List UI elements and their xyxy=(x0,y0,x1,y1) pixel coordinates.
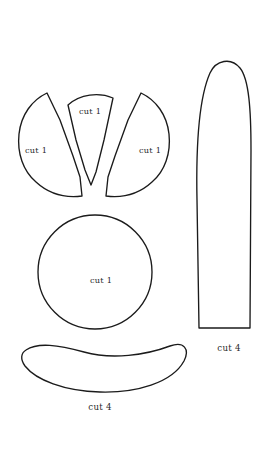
piece-label-center-circle: cut 1 xyxy=(90,275,112,285)
pattern-diagram: cut 1 cut 1 cut 1 cut 1 cut 4 cut 4 xyxy=(0,0,261,455)
piece-center-circle[interactable] xyxy=(38,215,152,329)
piece-label-left-petal: cut 1 xyxy=(25,145,47,155)
piece-label-long-leaf: cut 4 xyxy=(217,343,241,353)
piece-crescent-strip[interactable] xyxy=(22,344,187,392)
piece-label-center-wedge: cut 1 xyxy=(79,106,101,116)
piece-label-crescent-strip: cut 4 xyxy=(88,402,112,412)
piece-long-leaf[interactable] xyxy=(197,61,251,328)
piece-label-right-petal: cut 1 xyxy=(139,145,161,155)
pattern-sheet: cut 1 cut 1 cut 1 cut 1 cut 4 cut 4 xyxy=(0,0,261,455)
